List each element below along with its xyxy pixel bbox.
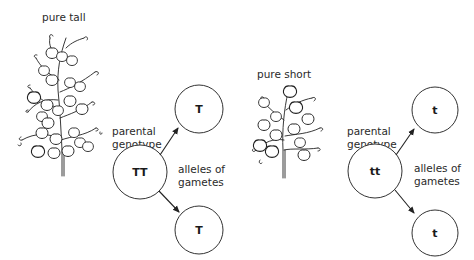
pure-short-label: pure short (257, 68, 311, 80)
gamete-allele-left-bottom: T (195, 224, 203, 237)
gamete-allele-left-top: T (195, 103, 203, 116)
alleles-of-gametes-label-left-line2: gametes (178, 176, 224, 188)
parental-genotype-label-left-line1: parental (112, 125, 156, 137)
arrow-down-icon (159, 191, 179, 212)
alleles-of-gametes-label-left-line1: alleles of (178, 163, 225, 175)
parental-genotype-label-right-line1: parental (347, 125, 391, 137)
pure-tall-label: pure tall (42, 11, 86, 23)
tall-plant-illustration (18, 35, 102, 176)
arrow-up-icon (160, 128, 178, 155)
genetics-diagram: pure tall (0, 0, 474, 260)
gamete-allele-right-top: t (432, 104, 437, 117)
gamete-allele-right-bottom: t (432, 227, 437, 240)
alleles-of-gametes-label-right-line2: gametes (414, 175, 460, 187)
arrow-up-icon (396, 129, 414, 155)
parental-genotype-tt-lower: tt (370, 165, 381, 178)
short-plant-illustration (252, 86, 322, 178)
arrow-down-icon (395, 190, 414, 213)
alleles-of-gametes-label-right-line1: alleles of (414, 162, 461, 174)
parental-genotype-tt-upper: TT (132, 166, 148, 179)
